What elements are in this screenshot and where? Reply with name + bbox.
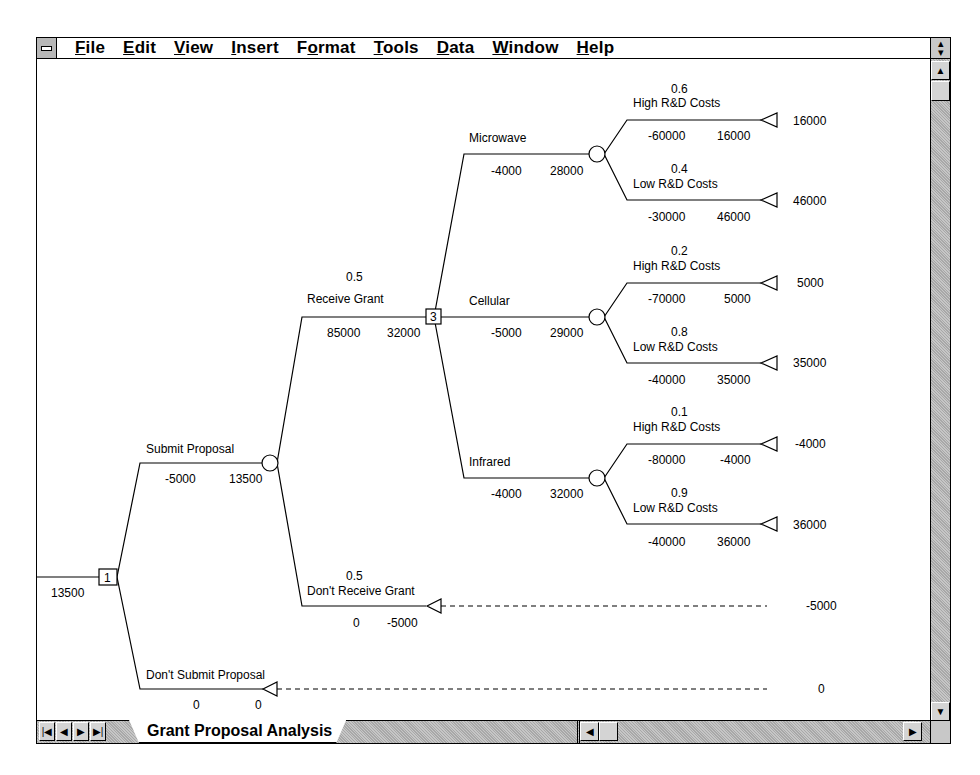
svg-text:-60000: -60000: [648, 129, 686, 143]
restore-updown-icon[interactable]: ▴▾: [930, 38, 950, 58]
svg-text:Low R&D Costs: Low R&D Costs: [633, 177, 718, 191]
svg-text:-5000: -5000: [165, 472, 196, 486]
menu-data[interactable]: Data: [437, 38, 475, 58]
horizontal-scroll-thumb[interactable]: [599, 722, 618, 741]
svg-text:High R&D Costs: High R&D Costs: [633, 420, 720, 434]
horizontal-scrollbar[interactable]: ◀ ▶: [577, 721, 928, 743]
svg-text:-40000: -40000: [648, 373, 686, 387]
sheet-tab-grant-proposal-analysis[interactable]: Grant Proposal Analysis: [129, 720, 346, 743]
svg-text:0.2: 0.2: [671, 244, 688, 258]
svg-text:-80000: -80000: [648, 453, 686, 467]
svg-text:-70000: -70000: [648, 292, 686, 306]
prev-sheet-icon[interactable]: ◀: [56, 722, 72, 741]
svg-text:Receive Grant: Receive Grant: [307, 292, 384, 306]
last-sheet-icon[interactable]: ▶|: [90, 722, 106, 741]
svg-text:-4000: -4000: [795, 437, 826, 451]
svg-text:-4000: -4000: [491, 164, 522, 178]
svg-text:3: 3: [430, 310, 437, 324]
svg-text:0.9: 0.9: [671, 486, 688, 500]
svg-text:High R&D Costs: High R&D Costs: [633, 259, 720, 273]
svg-text:35000: 35000: [717, 373, 751, 387]
chance-node-submit: [262, 455, 278, 471]
chance-node-infrared: [589, 470, 605, 486]
svg-text:0.1: 0.1: [671, 405, 688, 419]
scroll-down-arrow-icon[interactable]: ▼: [931, 702, 950, 721]
svg-text:5000: 5000: [797, 276, 824, 290]
svg-text:Low R&D Costs: Low R&D Costs: [633, 340, 718, 354]
svg-text:0.6: 0.6: [671, 82, 688, 96]
system-menu-icon[interactable]: [37, 38, 57, 58]
svg-text:46000: 46000: [717, 210, 751, 224]
svg-text:Don't Submit Proposal: Don't Submit Proposal: [146, 668, 265, 682]
menu-format[interactable]: Format: [297, 38, 356, 58]
tree-labels: 1 3 13500 Submit Proposal -5000 13500 Do…: [51, 82, 837, 712]
svg-text:Cellular: Cellular: [469, 294, 510, 308]
svg-text:0.5: 0.5: [346, 569, 363, 583]
vertical-scrollbar[interactable]: ▲ ▼: [930, 59, 950, 721]
svg-text:46000: 46000: [793, 194, 827, 208]
svg-text:32000: 32000: [387, 326, 421, 340]
chance-node-cellular: [589, 309, 605, 325]
scroll-right-arrow-icon[interactable]: ▶: [903, 722, 922, 741]
svg-text:5000: 5000: [724, 292, 751, 306]
svg-text:0.4: 0.4: [671, 162, 688, 176]
svg-text:29000: 29000: [550, 326, 584, 340]
svg-text:0: 0: [193, 698, 200, 712]
svg-text:36000: 36000: [793, 518, 827, 532]
svg-text:13500: 13500: [51, 586, 85, 600]
menu-window[interactable]: Window: [492, 38, 558, 58]
svg-text:Submit Proposal: Submit Proposal: [146, 442, 234, 456]
svg-text:16000: 16000: [793, 114, 827, 128]
decision-tree-canvas: 1 3 13500 Submit Proposal -5000 13500 Do…: [37, 59, 930, 721]
svg-text:-5000: -5000: [387, 616, 418, 630]
menu-bar: File Edit View Insert Format Tools Data …: [37, 38, 950, 59]
svg-text:0: 0: [353, 616, 360, 630]
scroll-up-arrow-icon[interactable]: ▲: [931, 61, 950, 80]
svg-text:28000: 28000: [550, 164, 584, 178]
spreadsheet-window: File Edit View Insert Format Tools Data …: [36, 37, 951, 744]
size-grip: [930, 721, 950, 743]
svg-text:85000: 85000: [327, 326, 361, 340]
svg-text:-5000: -5000: [806, 599, 837, 613]
svg-text:0.5: 0.5: [346, 270, 363, 284]
sheet-tab-bar: |◀ ◀ ▶ ▶| Grant Proposal Analysis ◀ ▶: [37, 720, 950, 743]
svg-text:Infrared: Infrared: [469, 455, 510, 469]
chance-node-microwave: [589, 146, 605, 162]
menu-view[interactable]: View: [174, 38, 213, 58]
svg-text:16000: 16000: [717, 129, 751, 143]
svg-text:13500: 13500: [229, 472, 263, 486]
svg-text:Microwave: Microwave: [469, 131, 527, 145]
first-sheet-icon[interactable]: |◀: [39, 722, 55, 741]
svg-text:32000: 32000: [550, 487, 584, 501]
svg-text:36000: 36000: [717, 535, 751, 549]
menu-help[interactable]: Help: [577, 38, 615, 58]
scroll-left-arrow-icon[interactable]: ◀: [580, 722, 599, 741]
svg-text:0: 0: [818, 682, 825, 696]
svg-text:Low R&D Costs: Low R&D Costs: [633, 501, 718, 515]
menu-tools[interactable]: Tools: [374, 38, 419, 58]
svg-text:0: 0: [255, 698, 262, 712]
svg-text:-40000: -40000: [648, 535, 686, 549]
svg-text:-4000: -4000: [491, 487, 522, 501]
menu-file[interactable]: File: [75, 38, 105, 58]
menu-insert[interactable]: Insert: [231, 38, 279, 58]
svg-text:-5000: -5000: [491, 326, 522, 340]
svg-text:0.8: 0.8: [671, 325, 688, 339]
svg-text:Don't Receive Grant: Don't Receive Grant: [307, 584, 415, 598]
vertical-scroll-thumb[interactable]: [931, 81, 950, 101]
svg-text:35000: 35000: [793, 356, 827, 370]
decision-tree: 1 3 13500 Submit Proposal -5000 13500 Do…: [37, 59, 930, 721]
next-sheet-icon[interactable]: ▶: [73, 722, 89, 741]
svg-text:-4000: -4000: [720, 453, 751, 467]
svg-text:High R&D Costs: High R&D Costs: [633, 96, 720, 110]
svg-text:1: 1: [104, 571, 111, 585]
menu-edit[interactable]: Edit: [123, 38, 156, 58]
svg-text:-30000: -30000: [648, 210, 686, 224]
